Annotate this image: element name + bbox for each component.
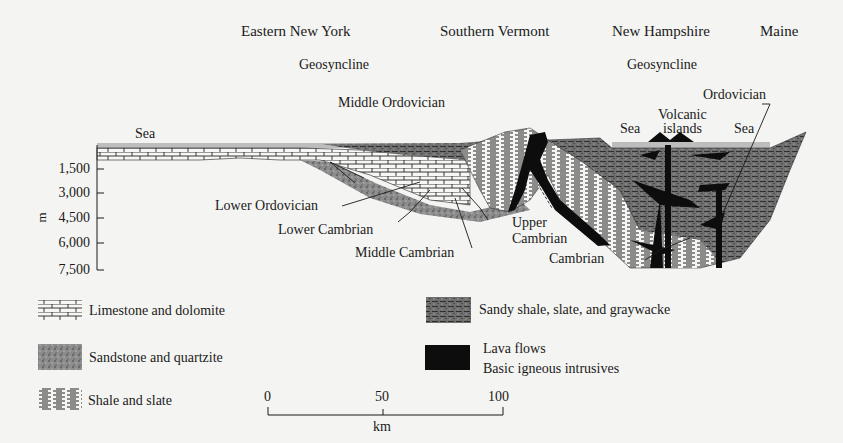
sea-east [612,142,770,148]
volcanic-label-line1: Volcanic [658,108,707,122]
sea-label-west: Sea [135,127,155,141]
label-middle-cambrian: Middle Cambrian [355,246,454,260]
region-maine: Maine [760,24,798,39]
legend-swatch-sandstone [38,344,82,370]
geosyncline-label-west: Geosyncline [299,58,369,72]
legend-swatch-limestone [38,300,82,320]
legend-swatch-sandy-shale [426,297,471,323]
label-lower-ordovician: Lower Ordovician [215,199,318,213]
legend-swatch-lava [425,345,470,370]
depth-axis [97,145,104,270]
label-middle-ordovician: Middle Ordovician [338,96,445,110]
label-upper-cambrian-line1: Upper [512,216,547,230]
label-ordovician: Ordovician [703,88,766,102]
depth-tick-7500: 7,500 [30,263,90,277]
depth-tick-3000: 3,000 [30,186,90,200]
depth-tick-6000: 6,000 [30,236,90,250]
region-eastern-new-york: Eastern New York [241,24,351,39]
legend-sandstone-label: Sandstone and quartzite [89,351,223,365]
legend-limestone-label: Limestone and dolomite [89,304,225,318]
scale-bar [268,407,503,415]
label-cambrian: Cambrian [549,252,604,266]
limestone-shelf [97,148,470,205]
scale-tick-0: 0 [264,390,271,404]
scale-tick-100: 100 [488,390,509,404]
legend-sandy-shale-label: Sandy shale, slate, and graywacke [479,303,670,317]
legend-lava-label-1: Lava flows [483,342,546,356]
label-lower-cambrian: Lower Cambrian [278,223,373,237]
region-new-hampshire: New Hampshire [612,24,710,39]
volcanic-label-line2: islands [663,122,702,136]
scale-unit-km: km [373,420,391,434]
geosyncline-label-east: Geosyncline [627,58,697,72]
depth-tick-1500: 1,500 [30,162,90,176]
depth-axis-unit: m [35,212,48,222]
sea-label-nh-east: Sea [734,122,754,136]
legend-shale-label: Shale and slate [88,394,172,408]
cross-section-diagram [0,0,843,443]
label-upper-cambrian-line2: Cambrian [512,232,567,246]
legend-swatch-shale [38,388,82,410]
region-southern-vermont: Southern Vermont [440,24,549,39]
scale-tick-50: 50 [375,390,389,404]
sea-label-nh-west: Sea [620,122,640,136]
legend-lava-label-2: Basic igneous intrusives [483,362,619,376]
